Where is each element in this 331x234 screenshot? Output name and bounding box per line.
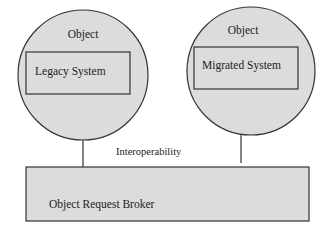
object-node-migrated: Object Migrated System bbox=[187, 7, 315, 135]
object-title-right: Object bbox=[228, 24, 259, 37]
broker-label: Object Request Broker bbox=[49, 198, 155, 211]
interoperability-label: Interoperability bbox=[116, 146, 182, 157]
object-node-legacy: Object Legacy System bbox=[18, 10, 148, 140]
migrated-system-label: Migrated System bbox=[202, 59, 281, 72]
object-request-broker: Object Request Broker bbox=[26, 167, 309, 221]
broker-box bbox=[26, 167, 309, 221]
object-title-left: Object bbox=[68, 28, 99, 41]
legacy-system-label: Legacy System bbox=[35, 65, 106, 78]
orb-diagram: Object Legacy System Object Migrated Sys… bbox=[0, 0, 331, 234]
